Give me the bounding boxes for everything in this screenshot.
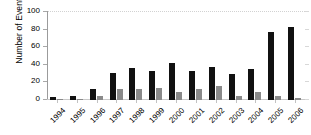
x-tick-2002: [216, 100, 217, 103]
x-axis-label-2000: 2000: [163, 106, 186, 129]
bar-series-1-2001: [189, 71, 195, 100]
y-tick-label-0: 0: [14, 95, 40, 103]
x-axis-label-1995: 1995: [64, 106, 87, 129]
x-tick-1996: [97, 100, 98, 103]
bar-group: [208, 12, 227, 100]
bar-group: [228, 12, 247, 100]
y-tick-label-80: 80: [14, 25, 40, 33]
x-axis-label-1996: 1996: [84, 106, 107, 129]
x-axis-label-2002: 2002: [203, 106, 226, 129]
bar-group: [148, 12, 167, 100]
bar-series-1-1994: [50, 97, 56, 100]
x-tick-2000: [176, 100, 177, 103]
x-tick-2006: [295, 100, 296, 103]
bar-series-2-2000: [176, 92, 182, 100]
bar-series-1-1998: [129, 68, 135, 100]
x-axis-label-1999: 1999: [143, 106, 166, 129]
y-tick-label-60: 60: [14, 42, 40, 50]
x-tick-1995: [77, 100, 78, 103]
x-tick-1994: [57, 100, 58, 103]
x-axis-label-2006: 2006: [282, 106, 305, 129]
x-tick-1997: [116, 100, 117, 103]
x-axis-label-1997: 1997: [103, 106, 126, 129]
bar-series-1-1999: [149, 71, 155, 100]
bar-group: [247, 12, 266, 100]
bar-series-1-1995: [70, 96, 76, 100]
bar-series-2-1997: [117, 89, 123, 100]
bar-series-1-1997: [110, 73, 116, 100]
bar-series-1-2004: [248, 69, 254, 100]
x-axis-label-2004: 2004: [242, 106, 265, 129]
bar-series-2-1998: [136, 89, 142, 100]
y-tick-label-100: 100: [14, 7, 40, 15]
bar-series-1-2005: [268, 32, 274, 100]
bar-series-2-2004: [255, 92, 261, 100]
bar-group: [168, 12, 187, 100]
x-tick-2003: [236, 100, 237, 103]
x-axis-label-2001: 2001: [183, 106, 206, 129]
x-axis-label-2005: 2005: [262, 106, 285, 129]
bar-group: [109, 12, 128, 100]
bar-series-1-2000: [169, 63, 175, 100]
bar-series-1-2006: [288, 27, 294, 100]
bar-series-1-2002: [209, 67, 215, 100]
x-axis-label-2003: 2003: [223, 106, 246, 129]
bar-group: [287, 12, 306, 100]
x-axis-label-1998: 1998: [123, 106, 146, 129]
x-tick-1999: [156, 100, 157, 103]
bar-group: [128, 12, 147, 100]
bar-group: [69, 12, 88, 100]
x-tick-2004: [255, 100, 256, 103]
bar-series-2-2001: [196, 89, 202, 100]
bar-group: [49, 12, 68, 100]
bar-series-2-2002: [216, 86, 222, 100]
x-axis-label-1994: 1994: [44, 106, 67, 129]
x-axis-labels: 1994199519961997199819992000200120022003…: [47, 101, 305, 135]
bar-group: [89, 12, 108, 100]
y-tick-label-40: 40: [14, 60, 40, 68]
bar-chart: Number of Events 020406080100 1994199519…: [0, 0, 311, 135]
bar-group: [188, 12, 207, 100]
bar-series-1-1996: [90, 89, 96, 100]
bar-group: [267, 12, 286, 100]
bar-series-2-1999: [156, 88, 162, 100]
bar-series-1-2003: [229, 74, 235, 100]
x-tick-1998: [136, 100, 137, 103]
plot-area: [47, 12, 304, 100]
x-tick-2001: [196, 100, 197, 103]
x-tick-2005: [275, 100, 276, 103]
y-tick-label-20: 20: [14, 77, 40, 85]
